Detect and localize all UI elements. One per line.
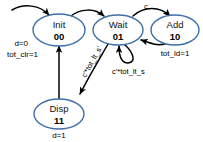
state-name-disp: Disp (49, 103, 68, 114)
edge-init-to-wait (70, 10, 104, 17)
output-labels-init: d=0 tot_clr=1 (7, 39, 38, 59)
state-node-add[interactable]: Add 10 (151, 15, 199, 45)
output-label-init-tot-clr: tot_clr=1 (7, 50, 38, 59)
edge-initial-to-init (12, 6, 49, 15)
edge-wait-to-add: c (133, 2, 170, 16)
output-label-disp-d: d=1 (52, 131, 66, 140)
edge-wait-to-disp: c'*tot_lt_s' (80, 44, 108, 94)
state-code-disp: 11 (54, 115, 65, 126)
output-labels-add: tot_ld=1 (161, 49, 190, 58)
output-label-add-tot-ld: tot_ld=1 (161, 49, 190, 58)
state-name-init: Init (53, 19, 66, 30)
state-code-wait: 01 (113, 31, 124, 42)
state-code-init: 00 (54, 31, 65, 42)
output-label-init-d: d=0 (14, 39, 28, 48)
state-name-add: Add (167, 19, 184, 30)
state-name-wait: Wait (109, 19, 128, 30)
diagram-canvas: c c'*tot_lt_s c'*tot_lt_s' Init 00 (0, 0, 203, 142)
state-node-disp[interactable]: Disp 11 (34, 99, 84, 129)
edge-label-wait-to-disp: c'*tot_lt_s' (80, 44, 105, 79)
edge-wait-self-loop: c'*tot_lt_s (112, 44, 145, 76)
edge-label-wait-self-loop: c'*tot_lt_s (112, 67, 145, 76)
output-labels-disp: d=1 (52, 131, 66, 140)
state-code-add: 10 (170, 31, 181, 42)
state-node-init[interactable]: Init 00 (33, 14, 85, 46)
state-machine-diagram: c c'*tot_lt_s c'*tot_lt_s' Init 00 (0, 0, 203, 142)
edge-label-wait-to-add: c (144, 2, 148, 11)
state-node-wait[interactable]: Wait 01 (93, 15, 143, 45)
